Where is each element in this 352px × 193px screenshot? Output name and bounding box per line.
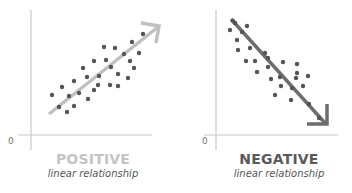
scatter-point	[269, 77, 273, 81]
scatter-point	[245, 24, 249, 28]
scatter-point	[72, 104, 76, 108]
scatter-point	[307, 102, 311, 106]
negative-origin-label: 0	[202, 136, 208, 146]
scatter-point	[116, 72, 120, 76]
scatter-point	[97, 74, 101, 78]
scatter-point	[236, 48, 240, 52]
scatter-point	[279, 84, 283, 88]
scatter-point	[244, 59, 248, 63]
scatter-point	[122, 52, 126, 56]
scatter-point	[92, 88, 96, 92]
negative-title: NEGATIVE	[191, 151, 352, 167]
scatter-point	[77, 91, 81, 95]
scatter-point	[113, 46, 117, 50]
negative-subtitle: linear relationship	[191, 167, 352, 180]
scatter-point	[289, 98, 293, 102]
scatter-point	[278, 75, 282, 79]
negative-trend-arrow-icon	[231, 19, 327, 124]
negative-label: NEGATIVE linear relationship	[191, 151, 352, 180]
scatter-point	[65, 110, 69, 114]
scatter-point	[281, 60, 285, 64]
scatter-point	[50, 93, 54, 97]
scatter-point	[126, 76, 130, 80]
scatter-point	[228, 28, 232, 32]
positive-trend-arrow-icon	[49, 23, 159, 114]
scatter-point	[67, 94, 71, 98]
scatter-point	[253, 59, 257, 63]
scatter-point	[240, 30, 244, 34]
scatter-point	[132, 66, 136, 70]
scatter-point	[295, 62, 299, 66]
scatter-point	[306, 74, 310, 78]
scatter-point	[295, 71, 299, 75]
positive-origin-label: 0	[8, 136, 14, 146]
scatter-point	[60, 85, 64, 89]
scatter-point	[255, 70, 259, 74]
scatter-point	[57, 105, 61, 109]
positive-subtitle: linear relationship	[5, 167, 181, 180]
scatter-point	[102, 45, 106, 49]
scatter-point	[248, 46, 252, 50]
scatter-point	[108, 83, 112, 87]
positive-label: POSITIVE linear relationship	[5, 151, 181, 180]
scatter-point	[85, 75, 89, 79]
scatter-point	[235, 38, 239, 42]
scatter-point	[266, 56, 270, 60]
scatter-point	[233, 21, 237, 25]
scatter-point	[317, 116, 321, 120]
positive-axes	[18, 10, 152, 150]
scatter-point	[290, 86, 294, 90]
scatter-point	[130, 40, 134, 44]
positive-title: POSITIVE	[5, 151, 181, 167]
scatter-point	[294, 76, 298, 80]
scatter-point	[81, 66, 85, 70]
scatter-point	[86, 97, 90, 101]
scatter-point	[266, 65, 270, 69]
scatter-point	[263, 51, 267, 55]
scatter-point	[72, 79, 76, 83]
scatter-point	[141, 32, 145, 36]
scatter-point	[273, 93, 277, 97]
scatter-point	[301, 84, 305, 88]
scatter-point	[109, 65, 113, 69]
scatter-point	[128, 59, 132, 63]
scatter-point	[104, 58, 108, 62]
scatter-point	[96, 83, 100, 87]
scatter-point	[116, 84, 120, 88]
scatter-point	[92, 59, 96, 63]
scatter-point	[137, 51, 141, 55]
